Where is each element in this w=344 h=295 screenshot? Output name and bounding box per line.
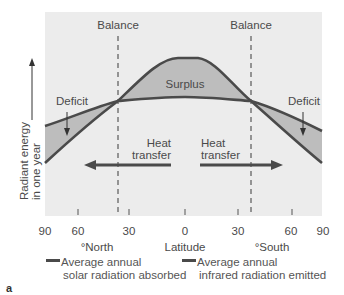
x-south-label: °South (255, 241, 290, 253)
legend-infrared-line1: Average annual (197, 256, 277, 268)
y-axis-label-line2: in one year (30, 143, 42, 200)
legend-infrared-line2: infrared radiation emitted (182, 269, 326, 282)
deficit-label-right: Deficit (288, 95, 321, 107)
y-axis-label-line1: Radiant energy (18, 122, 30, 200)
legend-solar: Average annual solar radiation absorbed (46, 256, 186, 282)
heat-transfer-label-right-2: transfer (201, 149, 240, 161)
legend-solar-swatch (46, 259, 60, 262)
surplus-label: Surplus (166, 78, 205, 90)
legend-solar-line1: Average annual (61, 256, 141, 268)
figure-letter: a (6, 282, 12, 294)
x-tick-label: 30 (232, 225, 245, 237)
x-axis-label: Latitude (165, 241, 206, 253)
x-tick-label: 90 (317, 225, 330, 237)
heat-transfer-label-left-2: transfer (132, 149, 171, 161)
x-tick-label: 30 (123, 225, 136, 237)
y-axis-arrowhead (29, 58, 35, 66)
legend-infrared-swatch (182, 259, 196, 262)
balance-label-right: Balance (230, 19, 272, 31)
x-tick-label: 90 (39, 225, 52, 237)
radiation-balance-diagram: Balance Balance Surplus Deficit Deficit … (0, 0, 344, 295)
x-north-label: °North (81, 241, 114, 253)
heat-transfer-label-left-1: Heat (147, 137, 172, 149)
x-tick-label: 0 (182, 225, 188, 237)
balance-label-left: Balance (97, 19, 139, 31)
legend-solar-line2: solar radiation absorbed (46, 269, 186, 282)
legend-infrared: Average annual infrared radiation emitte… (182, 256, 326, 282)
x-tick-label: 60 (72, 225, 85, 237)
deficit-label-left: Deficit (56, 95, 89, 107)
x-tick-label: 60 (285, 225, 298, 237)
heat-transfer-label-right-1: Heat (201, 137, 226, 149)
